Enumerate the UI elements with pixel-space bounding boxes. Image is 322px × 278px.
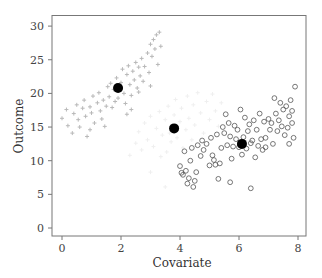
group-mean-dot xyxy=(113,83,123,93)
y-tick-label: 25 xyxy=(30,54,44,67)
x-tick-label: 6 xyxy=(236,242,243,255)
y-tick-label: 5 xyxy=(37,188,44,201)
x-tick-label: 4 xyxy=(177,242,184,255)
x-axis: 02468 xyxy=(59,236,302,255)
y-tick-label: 30 xyxy=(30,20,44,33)
x-tick-label: 2 xyxy=(118,242,125,255)
group-mean-dot xyxy=(169,123,179,133)
y-axis: 051015202530 xyxy=(30,20,52,235)
y-tick-label: 15 xyxy=(30,121,44,134)
group-mean-dot xyxy=(237,139,247,149)
x-tick-label: 8 xyxy=(295,242,302,255)
plot-frame xyxy=(52,16,306,237)
scatter-chart: 02468 051015202530 Covariate Outcome xyxy=(0,0,322,278)
y-tick-label: 0 xyxy=(37,222,44,235)
x-tick-label: 0 xyxy=(59,242,66,255)
x-axis-title: Covariate xyxy=(153,256,212,270)
y-tick-label: 20 xyxy=(30,87,44,100)
y-tick-label: 10 xyxy=(30,155,44,168)
y-axis-title: Outcome xyxy=(12,99,26,154)
